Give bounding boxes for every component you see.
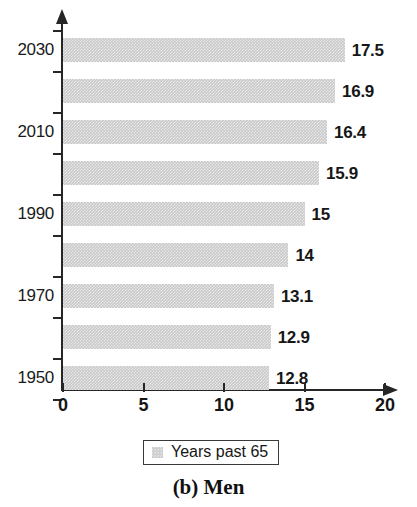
y-axis-tick <box>53 235 62 237</box>
bar <box>63 284 274 308</box>
x-axis-label-10: 10 <box>204 396 244 414</box>
bar-chart-figure: 20302010199019701950 17.516.916.415.9151… <box>0 0 417 507</box>
bar-value-label: 13.1 <box>281 288 313 305</box>
x-axis-tick <box>223 383 225 392</box>
y-axis-label-1990: 1990 <box>0 205 54 222</box>
x-axis-tick <box>143 383 145 392</box>
x-axis-label-0: 0 <box>43 396 83 414</box>
y-axis-tick <box>53 358 62 360</box>
legend-label: Years past 65 <box>171 444 268 460</box>
y-axis-label-2010: 2010 <box>0 123 54 140</box>
y-axis-tick <box>53 112 62 114</box>
figure-caption: (b) Men <box>0 477 417 498</box>
x-axis-tick <box>304 383 306 392</box>
bar-value-label: 14 <box>295 247 313 264</box>
y-axis-tick <box>53 153 62 155</box>
y-axis-label-1950: 1950 <box>0 369 54 386</box>
bar-value-label: 15 <box>312 206 330 223</box>
legend-swatch-years-past-65 <box>152 447 163 458</box>
bar <box>63 325 271 349</box>
x-axis-label-15: 15 <box>285 396 325 414</box>
y-axis-tick <box>53 317 62 319</box>
y-axis-label-2030: 2030 <box>0 41 54 58</box>
y-axis-label-1970: 1970 <box>0 287 54 304</box>
y-axis-tick <box>53 194 62 196</box>
y-axis-tick <box>53 30 62 32</box>
bar-value-label: 12.9 <box>278 329 310 346</box>
y-axis-arrow-icon <box>56 9 68 24</box>
legend: Years past 65 <box>143 440 279 465</box>
bar <box>63 120 327 144</box>
y-axis-tick <box>53 276 62 278</box>
bar-value-label: 16.4 <box>334 124 366 141</box>
bar-value-label: 17.5 <box>352 42 384 59</box>
x-axis-label-20: 20 <box>365 396 405 414</box>
x-axis-tick <box>62 383 64 392</box>
bar-value-label: 15.9 <box>326 165 358 182</box>
bar <box>63 79 335 103</box>
bar <box>63 202 305 226</box>
x-axis-label-5: 5 <box>124 396 164 414</box>
bar <box>63 366 269 390</box>
bar <box>63 38 345 62</box>
bar <box>63 243 288 267</box>
bar <box>63 161 319 185</box>
x-axis-tick <box>384 383 386 392</box>
bar-value-label: 16.9 <box>342 83 374 100</box>
plot-area: 20302010199019701950 17.516.916.415.9151… <box>0 0 417 420</box>
y-axis-tick <box>53 71 62 73</box>
